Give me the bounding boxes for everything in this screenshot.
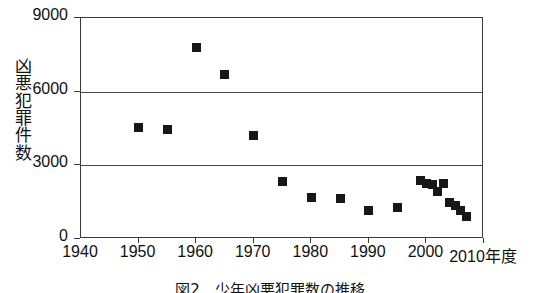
data-point xyxy=(307,193,316,202)
x-tick-mark xyxy=(483,238,484,243)
data-point xyxy=(278,177,287,186)
data-point xyxy=(163,125,172,134)
y-tick-label: 9000 xyxy=(0,6,76,24)
data-point xyxy=(249,131,258,140)
data-point xyxy=(364,206,373,215)
data-point xyxy=(393,203,402,212)
y-tick-label: 6000 xyxy=(0,80,76,98)
data-point xyxy=(192,43,201,52)
data-point xyxy=(439,179,448,188)
data-point xyxy=(134,123,143,132)
gridline xyxy=(81,92,482,93)
y-axis-label: 凶悪犯罪件数 xyxy=(8,58,38,162)
y-tick-label: 3000 xyxy=(0,153,76,171)
data-point xyxy=(220,70,229,79)
plot-area xyxy=(80,17,483,238)
figure-container: 凶悪犯罪件数 0300060009000 1940195019601970198… xyxy=(0,0,540,293)
y-tick-mark xyxy=(74,238,80,239)
figure-caption: 図2 少年凶悪犯罪数の推移 xyxy=(0,278,540,293)
data-point xyxy=(336,194,345,203)
x-tick-label: 2010年度 xyxy=(403,243,540,267)
data-point xyxy=(462,212,471,221)
gridline xyxy=(81,165,482,166)
